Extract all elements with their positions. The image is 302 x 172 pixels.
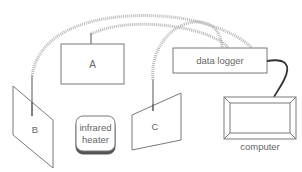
heater-label-line2: heater [82,134,109,145]
computer-label: computer [240,141,280,152]
heater-label-line1: infrared [79,122,111,133]
computer: computer [224,97,296,152]
cable-logger-to-computer [267,60,287,97]
infrared-heater: infrared heater [76,116,115,154]
sensor-c-label: C [152,121,159,132]
data-logger: data logger [173,48,267,73]
data-logger-label: data logger [196,55,244,66]
experiment-diagram: A data logger B infrared heater C comput… [0,0,302,172]
sensor-b-label: B [32,124,38,135]
sensor-b-panel: B [13,86,53,168]
sensor-c-panel: C [132,93,181,150]
sensor-a-label: A [89,59,96,70]
sensor-a: A [61,44,124,84]
